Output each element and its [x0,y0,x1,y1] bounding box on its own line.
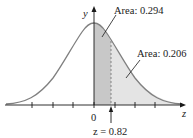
area-label-0-206: Area: 0.206 [137,48,187,59]
x-axis-arrow-icon [180,103,186,108]
y-axis-arrow-icon [92,6,97,12]
y-axis-label: y [82,8,88,19]
normal-curve-diagram: y z 0 z = 0.82 Area: 0.294 Area: 0.206 [0,0,193,138]
z-pointer-arrow-icon [109,106,113,112]
area-label-0-294: Area: 0.294 [114,5,164,16]
z-value-label: z = 0.82 [93,126,127,137]
area-1-leader [102,15,116,37]
x-axis-label: z [181,108,186,119]
origin-label: 0 [91,112,96,123]
